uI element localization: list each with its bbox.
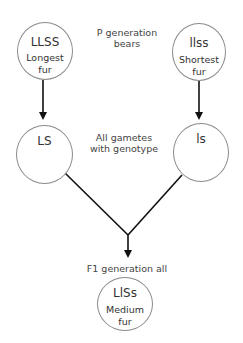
phenotype-line1: Medium <box>98 304 152 316</box>
genotype-label: LS <box>17 134 72 148</box>
phenotype-line1: Longest <box>18 52 72 64</box>
p-generation-label: P generation bears <box>97 27 157 49</box>
genotype-label: llss <box>173 36 225 50</box>
merge-line-left <box>65 173 128 235</box>
phenotype-line2: fur <box>18 64 72 76</box>
p-generation-label-line1: P generation <box>97 27 157 38</box>
p-generation-label-line2: bears <box>97 38 157 49</box>
gametes-label: All gametes with genotype <box>90 132 158 154</box>
phenotype-label: Longest fur <box>18 52 72 76</box>
node-gamete-right: ls <box>173 123 229 182</box>
phenotype-label: Medium fur <box>98 304 152 328</box>
node-gamete-left: LS <box>16 125 73 184</box>
phenotype-line2: fur <box>173 66 225 78</box>
phenotype-line2: fur <box>98 316 152 328</box>
phenotype-label: Shortest fur <box>173 54 225 78</box>
genotype-label: ls <box>174 132 228 146</box>
node-parent-right: llss Shortest fur <box>172 23 226 81</box>
phenotype-line1: Shortest <box>173 54 225 66</box>
node-offspring: LlSs Medium fur <box>97 277 153 331</box>
node-parent-left: LLSS Longest fur <box>17 22 73 80</box>
f1-generation-label-line1: F1 generation all <box>87 263 167 274</box>
gametes-label-line1: All gametes <box>90 132 158 143</box>
gametes-label-line2: with genotype <box>90 143 158 154</box>
merge-line-right <box>128 175 182 235</box>
genotype-label: LLSS <box>18 35 72 49</box>
genotype-label: LlSs <box>98 286 152 300</box>
f1-generation-label: F1 generation all <box>87 263 167 274</box>
